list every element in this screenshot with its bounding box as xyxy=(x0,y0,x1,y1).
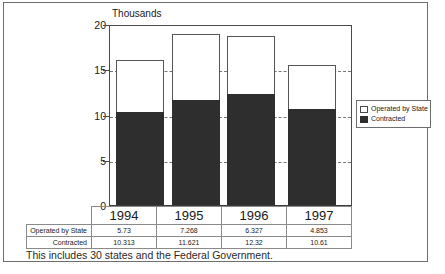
legend-item-operated-by-state[interactable]: Operated by State xyxy=(360,104,427,114)
figure-caption: This includes 30 states and the Federal … xyxy=(26,249,273,261)
bar-group-1994[interactable] xyxy=(116,24,164,205)
table-row-label-operated-by-state: Operated by State xyxy=(27,225,92,237)
table-header-1994: 1994 xyxy=(92,207,157,225)
bar-group-1997[interactable] xyxy=(288,24,336,205)
table-header-1997: 1997 xyxy=(287,207,352,225)
chart-legend: Operated by State Contracted xyxy=(356,100,431,128)
bar-segment-contracted-1997[interactable] xyxy=(288,109,336,205)
legend-label-contracted: Contracted xyxy=(371,114,405,124)
table-corner-cell xyxy=(27,207,92,225)
cell-operated-1994: 5.73 xyxy=(92,225,157,237)
open-square-icon xyxy=(360,106,368,113)
chart-plot-area xyxy=(109,25,352,206)
figure-frame: Thousands 20 15 10 5 0 xyxy=(3,2,428,262)
cell-contracted-1996: 12.32 xyxy=(222,237,287,249)
cell-operated-1995: 7.268 xyxy=(157,225,222,237)
cell-contracted-1995: 11.621 xyxy=(157,237,222,249)
cell-contracted-1994: 10.313 xyxy=(92,237,157,249)
data-table: 1994 1995 1996 1997 Operated by State 5.… xyxy=(26,206,352,249)
bar-segment-contracted-1995[interactable] xyxy=(172,100,220,205)
table-row-years: 1994 1995 1996 1997 xyxy=(27,207,352,225)
table-row-operated-by-state: Operated by State 5.73 7.268 6.327 4.853 xyxy=(27,225,352,237)
y-axis-tick-label-20: 20 xyxy=(72,19,106,31)
table-header-1996: 1996 xyxy=(222,207,287,225)
y-axis-unit-label: Thousands xyxy=(112,8,161,19)
cell-contracted-1997: 10.61 xyxy=(287,237,352,249)
legend-label-operated-by-state: Operated by State xyxy=(371,104,428,114)
bar-segment-contracted-1994[interactable] xyxy=(116,112,164,205)
filled-square-icon xyxy=(360,116,368,123)
y-axis-tick-label-15: 15 xyxy=(72,64,106,76)
bar-group-1996[interactable] xyxy=(227,24,275,205)
legend-item-contracted[interactable]: Contracted xyxy=(360,114,427,124)
bar-segment-contracted-1996[interactable] xyxy=(227,94,275,206)
bar-group-1995[interactable] xyxy=(172,24,220,205)
y-axis-tick-label-5: 5 xyxy=(72,155,106,167)
cell-operated-1997: 4.853 xyxy=(287,225,352,237)
cell-operated-1996: 6.327 xyxy=(222,225,287,237)
table-header-1995: 1995 xyxy=(157,207,222,225)
table-row-label-contracted: Contracted xyxy=(27,237,92,249)
y-axis-tick-label-10: 10 xyxy=(72,110,106,122)
table-row-contracted: Contracted 10.313 11.621 12.32 10.61 xyxy=(27,237,352,249)
